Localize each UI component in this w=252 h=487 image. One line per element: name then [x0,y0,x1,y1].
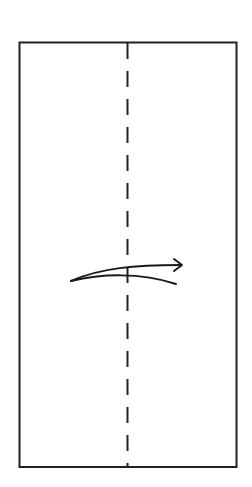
diagram-svg [0,0,252,487]
origami-diagram [0,0,252,487]
